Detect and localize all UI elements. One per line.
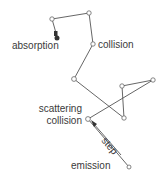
path-graphic	[0, 0, 164, 179]
node	[50, 17, 54, 21]
label-scattering-line1: scattering	[26, 103, 82, 114]
label-scattering-line2: collision	[26, 115, 82, 126]
node	[122, 116, 126, 120]
label-absorption: absorption	[12, 40, 59, 51]
node	[151, 78, 155, 82]
node-collision	[91, 42, 95, 46]
random-walk-diagram: absorption collision scattering collisio…	[0, 0, 164, 179]
node	[87, 11, 91, 15]
label-emission: emission	[71, 160, 110, 171]
node-emission	[127, 165, 131, 169]
label-collision: collision	[98, 39, 134, 50]
node	[72, 77, 77, 82]
node-scattering	[86, 117, 91, 122]
node	[120, 84, 124, 88]
label-scattering-collision: scattering collision	[26, 103, 82, 126]
